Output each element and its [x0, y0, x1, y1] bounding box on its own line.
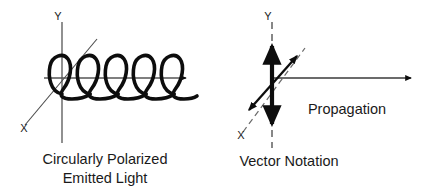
polarization-figure: Y X Circularly Polarized Emitted Light Y…	[0, 0, 433, 194]
right-x-axis-label: X	[237, 129, 245, 141]
propagation-label: Propagation	[308, 101, 386, 117]
left-x-axis-line	[25, 39, 97, 125]
left-caption-line-1: Circularly Polarized	[43, 151, 168, 167]
right-y-axis-label: Y	[264, 10, 272, 22]
left-y-axis-label: Y	[54, 10, 62, 22]
right-caption-line-1: Vector Notation	[239, 153, 338, 169]
left-caption-line-2: Emitted Light	[63, 170, 148, 186]
diagram-canvas: Y X Circularly Polarized Emitted Light Y…	[0, 0, 433, 194]
right-panel-group: Y X Propagation Vector Notation	[237, 10, 411, 169]
left-x-axis-label: X	[20, 122, 28, 134]
helix-loop-5	[161, 55, 197, 99]
helix-path-group	[49, 55, 197, 99]
left-panel-group: Y X Circularly Polarized Emitted Light	[20, 10, 197, 186]
